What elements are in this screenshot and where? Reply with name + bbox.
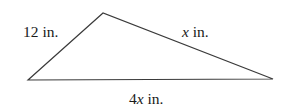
right-side-label: x in. — [181, 23, 209, 40]
triangle-diagram: 12 in. x in. 4x in. — [0, 0, 282, 110]
triangle-shape — [28, 13, 273, 80]
base-label: 4x in. — [129, 90, 163, 107]
left-side-label: 12 in. — [23, 23, 58, 40]
